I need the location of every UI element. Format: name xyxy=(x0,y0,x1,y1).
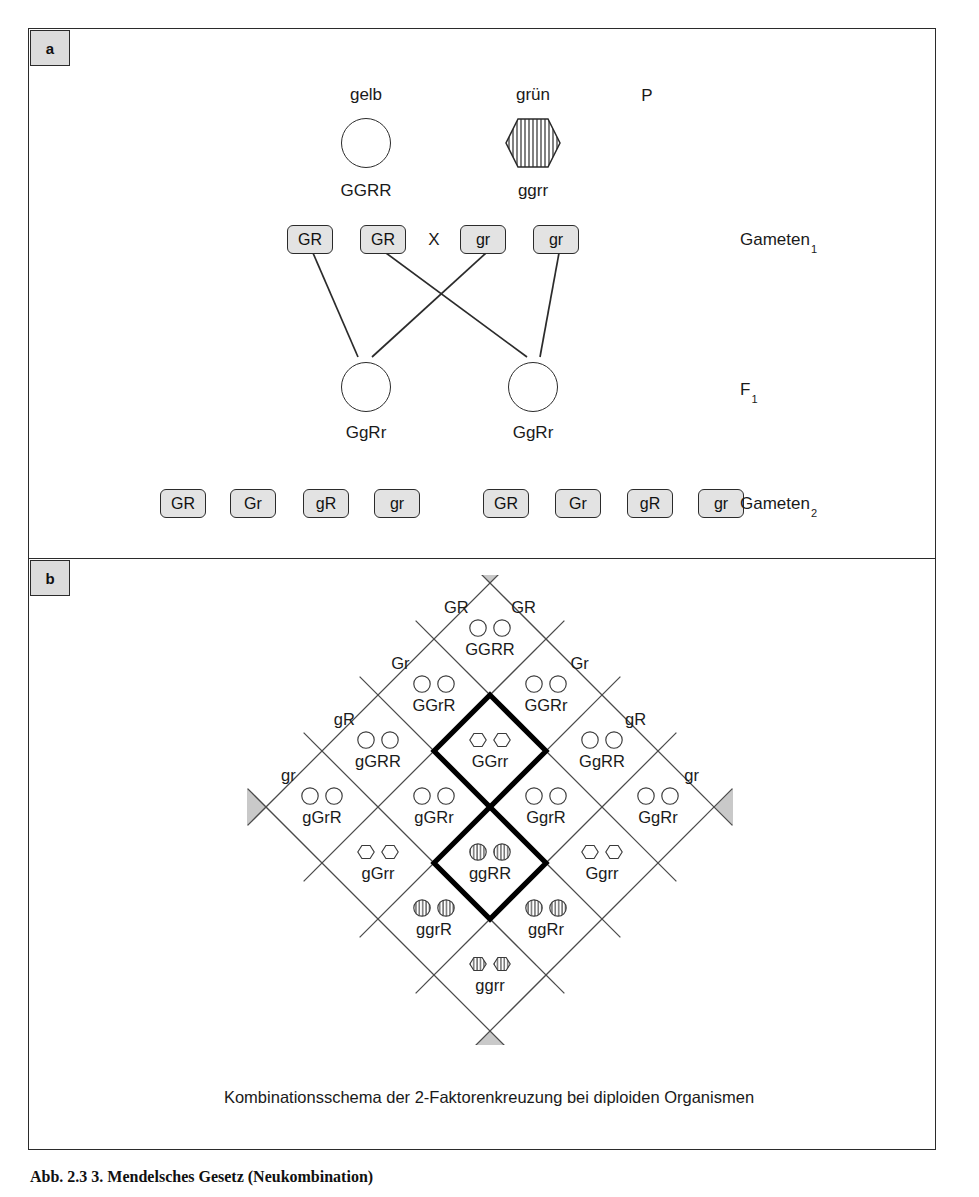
f1-genotype-right: GgRr xyxy=(513,424,554,441)
f1-text: F xyxy=(740,380,750,399)
panel-divider xyxy=(28,558,936,559)
punnett-edge-label-left-2: gR xyxy=(334,710,355,728)
apex-marker-bottom xyxy=(471,1031,509,1045)
parent-organism-yellow-round xyxy=(341,118,391,168)
punnett-edge-label-right-0: GR xyxy=(511,598,536,616)
punnett-edge-label-left-3: gr xyxy=(281,766,296,784)
generation-label-gameten2: Gameten2 xyxy=(740,495,816,515)
punnett-cell-genotype: gGrR xyxy=(302,808,342,826)
f1-genotype-left: GgRr xyxy=(346,424,387,441)
punnett-square-diamond: GGRRGGRrGgRRGgRrGGrRGGrrGgrRGgrrgGRRgGRr… xyxy=(160,575,820,1045)
punnett-cell-genotype: ggRR xyxy=(469,864,511,882)
punnett-cell-genotype: GGRr xyxy=(524,696,568,714)
gameten1-subscript: 1 xyxy=(811,243,817,255)
punnett-cell: gGrR xyxy=(302,788,342,826)
punnett-cell: GgRR xyxy=(579,732,625,770)
punnett-cell-genotype: GGrr xyxy=(472,752,509,770)
gamete1-chip-2[interactable]: gr xyxy=(460,225,506,254)
punnett-cell-genotype: GgRR xyxy=(579,752,625,770)
punnett-cell: GGRr xyxy=(524,676,568,714)
gamete1-chip-3[interactable]: gr xyxy=(533,225,579,254)
gamete2-chip-6[interactable]: gR xyxy=(627,489,673,518)
punnett-cell: GGrR xyxy=(412,676,455,714)
figure-caption: Abb. 2.3 3. Mendelsches Gesetz (Neukombi… xyxy=(30,1168,373,1186)
punnett-cell-genotype: GGrR xyxy=(412,696,455,714)
gameten2-text: Gameten xyxy=(740,494,810,513)
punnett-edge-label-right-3: gr xyxy=(684,766,699,784)
gamete2-chip-7[interactable]: gr xyxy=(698,489,744,518)
punnett-edge-label-right-2: gR xyxy=(625,710,646,728)
punnett-cell-genotype: ggrR xyxy=(416,920,452,938)
punnett-cell-genotype: GgrR xyxy=(526,808,566,826)
punnett-cell: GGRR xyxy=(465,620,515,658)
punnett-cell: GgrR xyxy=(526,788,566,826)
apex-marker-right xyxy=(714,788,733,826)
panel-label-b: b xyxy=(30,560,70,596)
punnett-cell-genotype: GGRR xyxy=(465,640,515,658)
gameten2-subscript: 2 xyxy=(811,507,817,519)
gamete2-chip-5[interactable]: Gr xyxy=(555,489,601,518)
generation-label-gameten1: Gameten1 xyxy=(740,231,816,251)
parent-genotype-ggrr-recessive: ggrr xyxy=(518,182,548,199)
punnett-cell-genotype: Ggrr xyxy=(586,864,620,882)
punnett-cell: GGrr xyxy=(470,733,510,770)
gamete2-chip-1[interactable]: Gr xyxy=(230,489,276,518)
punnett-cell: gGRr xyxy=(414,788,454,826)
cross-symbol: X xyxy=(428,231,439,248)
f1-organism-left xyxy=(341,362,391,412)
parent-genotype-ggrr-dominant: GGRR xyxy=(341,182,392,199)
gamete2-chip-0[interactable]: GR xyxy=(160,489,206,518)
generation-label-p: P xyxy=(641,87,652,104)
gamete2-chip-4[interactable]: GR xyxy=(483,489,529,518)
punnett-cell: ggRR xyxy=(469,844,511,882)
f1-organism-right xyxy=(508,362,558,412)
gamete1-chip-0[interactable]: GR xyxy=(287,225,333,254)
punnett-cell: ggrR xyxy=(414,900,454,938)
gamete2-chip-3[interactable]: gr xyxy=(374,489,420,518)
parent-phenotype-gruen: grün xyxy=(516,86,550,103)
figure-root: a b gelb grün P GGRR ggrr GR GR X gr gr … xyxy=(0,0,979,1197)
punnett-cell-genotype: ggRr xyxy=(528,920,564,938)
parent-phenotype-gelb: gelb xyxy=(350,86,382,103)
punnett-cell: ggrr xyxy=(470,957,510,994)
punnett-edge-label-right-1: Gr xyxy=(570,654,589,672)
punnett-cell-genotype: gGRr xyxy=(414,808,454,826)
gamete1-chip-1[interactable]: GR xyxy=(360,225,406,254)
f1-subscript: 1 xyxy=(751,393,757,405)
punnett-cell-genotype: ggrr xyxy=(475,976,505,994)
punnett-highlight-outline xyxy=(434,695,546,919)
punnett-cell-genotype: gGRR xyxy=(355,752,401,770)
panel-b-caption: Kombinationsschema der 2-Faktorenkreuzun… xyxy=(224,1088,754,1107)
apex-marker-left xyxy=(247,788,266,826)
punnett-edge-label-left-0: GR xyxy=(444,598,469,616)
punnett-cell: Ggrr xyxy=(582,845,622,882)
gamete2-chip-2[interactable]: gR xyxy=(303,489,349,518)
apex-marker-top xyxy=(471,575,509,583)
punnett-cell: gGRR xyxy=(355,732,401,770)
punnett-cell: GgRr xyxy=(638,788,678,826)
punnett-cell-genotype: GgRr xyxy=(638,808,678,826)
parent-organism-green-wrinkled xyxy=(504,116,562,170)
punnett-cell: ggRr xyxy=(526,900,566,938)
generation-label-f1: F1 xyxy=(740,381,757,401)
punnett-cell-genotype: gGrr xyxy=(362,864,396,882)
gameten1-text: Gameten xyxy=(740,230,810,249)
punnett-cell: gGrr xyxy=(358,845,398,882)
punnett-edge-label-left-1: Gr xyxy=(391,654,410,672)
panel-a-cross-lines xyxy=(0,0,979,558)
